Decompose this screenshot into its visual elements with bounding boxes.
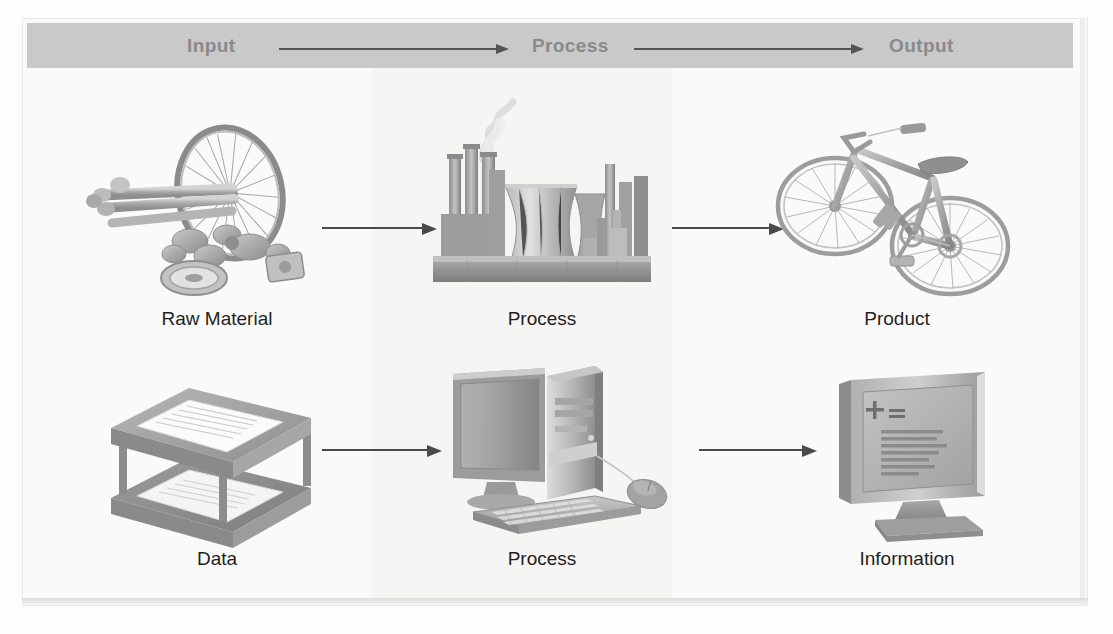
paper-trays-icon xyxy=(97,388,357,563)
arrow-head xyxy=(802,445,817,457)
diagram-canvas: Raw Material xyxy=(27,68,1073,598)
header-arrow-input-to-process xyxy=(279,44,509,54)
arrow-shaft xyxy=(279,48,498,50)
cell-label-data: Data xyxy=(62,548,372,570)
header-band: Input Process Output xyxy=(27,23,1073,68)
monitor-report-icon xyxy=(817,368,1047,563)
factory-icon xyxy=(427,98,657,313)
bicycle-icon xyxy=(772,106,1027,311)
row1-arrow-raw-material-to-process xyxy=(322,223,437,234)
arrow-head xyxy=(851,44,864,54)
arrow-shaft xyxy=(322,449,428,451)
row1-arrow-process-to-product xyxy=(672,223,784,234)
page-bottom-edge-shadow xyxy=(22,598,1088,604)
bicycle-parts-icon xyxy=(82,123,352,308)
header-stage-output: Output xyxy=(889,23,954,68)
header-arrow-process-to-output xyxy=(634,44,864,54)
cell-label-raw-material: Raw Material xyxy=(62,308,372,330)
header-stage-input: Input xyxy=(187,23,235,68)
arrow-shaft xyxy=(699,449,803,451)
header-stage-process: Process xyxy=(532,23,609,68)
row2-arrow-process-to-information xyxy=(699,445,817,456)
arrow-shaft xyxy=(322,227,423,229)
cell-label-computer-process: Process xyxy=(417,548,667,570)
row2-arrow-data-to-process xyxy=(322,445,442,456)
diagram-scan-frame: Input Process Output xyxy=(0,0,1113,634)
cell-label-information: Information xyxy=(767,548,1047,570)
arrow-shaft xyxy=(634,48,853,50)
cell-label-product: Product xyxy=(767,308,1027,330)
arrow-head xyxy=(427,445,442,457)
cell-label-factory-process: Process xyxy=(417,308,667,330)
page-right-edge-shadow xyxy=(1080,18,1086,606)
arrow-shaft xyxy=(672,227,770,229)
desktop-computer-icon xyxy=(445,360,695,560)
arrow-head xyxy=(496,44,509,54)
